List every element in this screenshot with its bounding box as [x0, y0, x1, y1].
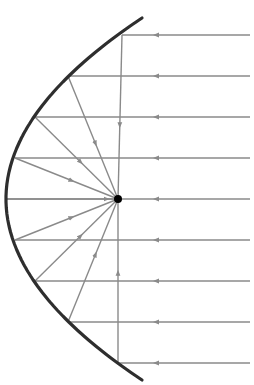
parabolic-mirror-diagram: [0, 0, 254, 385]
ray-group: [7, 35, 250, 363]
reflected-ray: [15, 199, 118, 240]
reflected-ray: [15, 158, 118, 199]
focal-point: [114, 195, 122, 203]
reflected-ray: [68, 199, 118, 322]
reflected-ray: [68, 76, 118, 199]
